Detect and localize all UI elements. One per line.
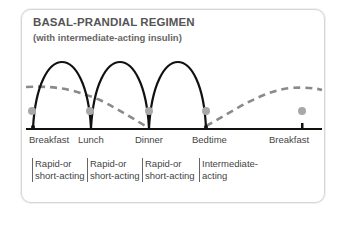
insulin-label-bedtime: Intermediate- acting [199, 158, 258, 182]
meal-dot [145, 107, 153, 115]
insulin-label-line1: Rapid-or [90, 158, 140, 170]
dinner-insulin-arch [149, 62, 206, 128]
meal-label-breakfast-next: Breakfast [269, 134, 309, 145]
insulin-label-line2: short-acting [145, 170, 195, 182]
insulin-label-line2: short-acting [90, 170, 140, 182]
insulin-label-lunch: Rapid-or short-acting [87, 158, 140, 182]
insulin-label-line2: acting [202, 170, 258, 182]
meal-label-bedtime: Bedtime [192, 134, 227, 145]
insulin-label-line1: Intermediate- [202, 158, 258, 170]
injection-marker [31, 125, 35, 129]
injection-marker [301, 123, 304, 129]
meal-label-breakfast: Breakfast [29, 134, 69, 145]
insulin-label-line1: Rapid-or [35, 158, 85, 170]
meal-label-lunch: Lunch [78, 134, 104, 145]
lunch-insulin-arch [91, 62, 149, 128]
meal-dot [86, 107, 94, 115]
breakfast-insulin-arch [33, 62, 91, 128]
meal-dot [28, 107, 36, 115]
insulin-label-dinner: Rapid-or short-acting [142, 158, 195, 182]
insulin-label-line2: short-acting [35, 170, 85, 182]
meal-label-dinner: Dinner [135, 134, 163, 145]
insulin-label-breakfast: Rapid-or short-acting [32, 158, 85, 182]
insulin-label-line1: Rapid-or [145, 158, 195, 170]
intermediate-insulin-dashed-curve [26, 87, 322, 128]
meal-dot [298, 107, 306, 115]
injection-marker [204, 125, 208, 129]
meal-dot [202, 107, 210, 115]
